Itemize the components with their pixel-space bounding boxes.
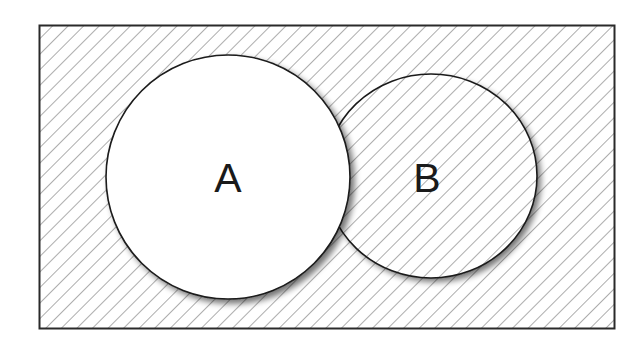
venn-diagram: A B — [0, 0, 637, 360]
set-a-label: A — [214, 155, 242, 201]
set-b-label: B — [413, 155, 440, 201]
